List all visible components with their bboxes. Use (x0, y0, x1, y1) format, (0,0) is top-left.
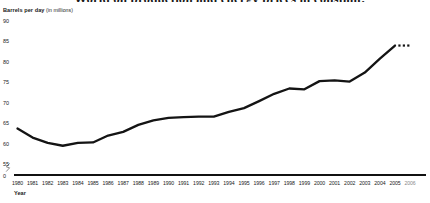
x-tick-1981: 1981 (25, 180, 41, 186)
x-tick-2004: 2004 (372, 180, 388, 186)
projection-dot (407, 44, 409, 46)
x-axis-rule (14, 174, 426, 176)
x-tick-1984: 1984 (70, 180, 86, 186)
x-tick-1996: 1996 (251, 180, 267, 186)
x-tick-1995: 1995 (236, 180, 252, 186)
x-tick-1992: 1992 (191, 180, 207, 186)
x-tick-1983: 1983 (55, 180, 71, 186)
x-tick-1986: 1986 (100, 180, 116, 186)
x-tick-2001: 2001 (327, 180, 343, 186)
x-tick-1985: 1985 (85, 180, 101, 186)
x-tick-1998: 1998 (281, 180, 297, 186)
projection-dot (398, 44, 400, 46)
projection-dot (403, 44, 405, 46)
x-tick-1987: 1987 (115, 180, 131, 186)
x-tick-1980: 1980 (10, 180, 26, 186)
oil-production-line-chart: World oil production and energy prices i… (0, 0, 430, 203)
x-tick-1990: 1990 (161, 180, 177, 186)
x-tick-1991: 1991 (176, 180, 192, 186)
x-tick-2003: 2003 (357, 180, 373, 186)
x-axis-label: Year (14, 190, 26, 196)
x-tick-2000: 2000 (312, 180, 328, 186)
projection-dots (398, 44, 409, 46)
x-tick-2005: 2005 (387, 180, 403, 186)
x-tick-1989: 1989 (145, 180, 161, 186)
x-tick-2002: 2002 (342, 180, 358, 186)
data-line-world-oil-production (18, 46, 396, 146)
x-tick-1997: 1997 (266, 180, 282, 186)
chart-plot-area (0, 0, 430, 203)
x-tick-1993: 1993 (206, 180, 222, 186)
x-tick-1999: 1999 (296, 180, 312, 186)
x-tick-1982: 1982 (40, 180, 56, 186)
x-tick-2006: 2006 (402, 180, 418, 186)
x-tick-1994: 1994 (221, 180, 237, 186)
x-tick-1988: 1988 (130, 180, 146, 186)
